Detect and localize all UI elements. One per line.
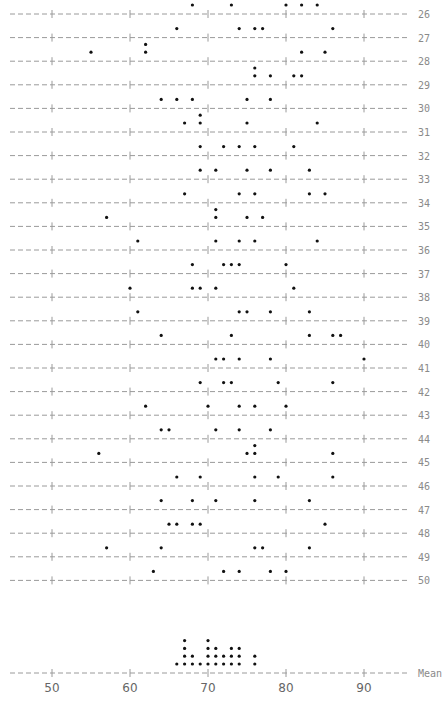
data-dot bbox=[136, 310, 139, 313]
data-dot bbox=[245, 310, 248, 313]
data-dot bbox=[245, 169, 248, 172]
row-label: 45 bbox=[418, 457, 430, 468]
data-dot bbox=[175, 475, 178, 478]
mean-dot bbox=[183, 655, 186, 658]
mean-dot bbox=[175, 662, 178, 665]
sample-row-50: 50 bbox=[10, 570, 430, 587]
data-dot bbox=[199, 381, 202, 384]
data-dot bbox=[222, 357, 225, 360]
sample-row-46: 46 bbox=[10, 475, 430, 492]
data-dot bbox=[214, 357, 217, 360]
data-dot bbox=[331, 452, 334, 455]
data-dot bbox=[284, 405, 287, 408]
data-dot bbox=[300, 74, 303, 77]
data-dot bbox=[308, 192, 311, 195]
sample-row-29: 29 bbox=[10, 66, 430, 90]
row-label: 48 bbox=[418, 528, 430, 539]
data-dot bbox=[308, 334, 311, 337]
sample-row-33: 33 bbox=[10, 169, 430, 186]
data-dot bbox=[160, 499, 163, 502]
row-label: 40 bbox=[418, 339, 430, 350]
mean-dot bbox=[206, 647, 209, 650]
data-dot bbox=[238, 570, 241, 573]
data-dot bbox=[160, 546, 163, 549]
data-dot bbox=[214, 216, 217, 219]
data-dot bbox=[253, 192, 256, 195]
data-dot bbox=[253, 444, 256, 447]
row-label: 33 bbox=[418, 174, 430, 185]
data-dot bbox=[300, 3, 303, 6]
data-dot bbox=[238, 192, 241, 195]
data-dot bbox=[277, 475, 280, 478]
mean-dot bbox=[230, 655, 233, 658]
data-dot bbox=[253, 145, 256, 148]
mean-dot bbox=[191, 662, 194, 665]
mean-dot bbox=[206, 655, 209, 658]
mean-dot bbox=[230, 647, 233, 650]
dotplot-chart: 2627282930313233343536373839404142434445… bbox=[0, 0, 448, 702]
mean-dot bbox=[222, 662, 225, 665]
data-dot bbox=[261, 216, 264, 219]
data-dot bbox=[214, 169, 217, 172]
data-dot bbox=[199, 121, 202, 124]
sample-row-47: 47 bbox=[10, 499, 430, 516]
row-label: 38 bbox=[418, 292, 430, 303]
data-dot bbox=[284, 570, 287, 573]
data-dot bbox=[292, 287, 295, 290]
data-dot bbox=[277, 381, 280, 384]
row-label: 28 bbox=[418, 56, 430, 67]
row-label: 46 bbox=[418, 481, 430, 492]
data-dot bbox=[222, 145, 225, 148]
data-dot bbox=[230, 334, 233, 337]
data-dot bbox=[167, 428, 170, 431]
row-label: 26 bbox=[418, 9, 430, 20]
data-dot bbox=[175, 523, 178, 526]
mean-dot bbox=[183, 647, 186, 650]
data-dot bbox=[144, 405, 147, 408]
data-dot bbox=[331, 334, 334, 337]
x-tick-label: 60 bbox=[122, 681, 137, 695]
data-dot bbox=[191, 3, 194, 6]
row-label: 30 bbox=[418, 103, 430, 114]
data-dot bbox=[128, 287, 131, 290]
data-dot bbox=[269, 74, 272, 77]
data-dot bbox=[308, 310, 311, 313]
data-dot bbox=[238, 145, 241, 148]
data-dot bbox=[160, 334, 163, 337]
data-dot bbox=[199, 287, 202, 290]
data-dot bbox=[89, 51, 92, 54]
row-label: 44 bbox=[418, 434, 430, 445]
data-dot bbox=[253, 475, 256, 478]
data-dot bbox=[323, 192, 326, 195]
sample-row-41: 41 bbox=[10, 357, 430, 374]
data-dot bbox=[191, 499, 194, 502]
data-dot bbox=[253, 66, 256, 69]
mean-dot bbox=[214, 662, 217, 665]
data-dot bbox=[269, 428, 272, 431]
data-dot bbox=[214, 428, 217, 431]
x-axis: 5060708090 bbox=[44, 681, 371, 695]
sample-row-30: 30 bbox=[10, 98, 430, 115]
data-dot bbox=[230, 263, 233, 266]
data-dot bbox=[144, 43, 147, 46]
mean-dot bbox=[191, 655, 194, 658]
data-dot bbox=[245, 452, 248, 455]
sample-row-34: 34 bbox=[10, 192, 430, 209]
data-dot bbox=[222, 263, 225, 266]
data-dot bbox=[269, 357, 272, 360]
data-dot bbox=[222, 381, 225, 384]
data-dot bbox=[238, 27, 241, 30]
row-label: 27 bbox=[418, 33, 430, 44]
data-dot bbox=[230, 381, 233, 384]
data-dot bbox=[199, 169, 202, 172]
sample-row-48: 48 bbox=[10, 523, 430, 540]
mean-dot bbox=[183, 639, 186, 642]
data-dot bbox=[284, 3, 287, 6]
data-dot bbox=[175, 98, 178, 101]
data-dot bbox=[238, 310, 241, 313]
data-dot bbox=[284, 263, 287, 266]
data-dot bbox=[253, 27, 256, 30]
data-dot bbox=[331, 27, 334, 30]
mean-dot bbox=[206, 662, 209, 665]
row-label: 47 bbox=[418, 505, 430, 516]
